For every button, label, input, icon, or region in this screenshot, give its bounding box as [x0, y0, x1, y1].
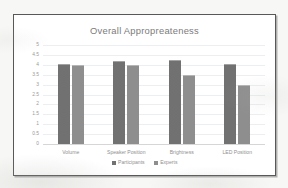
bar-group: [43, 45, 99, 144]
bar-top-highlight: [127, 65, 139, 66]
y-axis-tick-label: 0.5: [32, 132, 39, 137]
bar-groups: [43, 45, 265, 144]
y-axis-tick-label: 2.5: [32, 92, 39, 97]
bar-experts-led-position[interactable]: [238, 85, 250, 144]
bar-group: [99, 45, 155, 144]
chart-frame: Overall Appropreateness 54.543.532.521.5…: [13, 14, 276, 176]
x-axis-tick-label: Brightness: [154, 146, 210, 158]
bar-experts-speaker-position[interactable]: [127, 65, 139, 144]
bar-group: [154, 45, 210, 144]
y-axis-tick-label: 3.5: [32, 72, 39, 77]
bar-group: [210, 45, 266, 144]
y-axis: 54.543.532.521.510.50: [16, 45, 41, 144]
plot-area: [43, 45, 265, 144]
bar-participants-led-position[interactable]: [224, 64, 236, 144]
bar-participants-volume[interactable]: [58, 64, 70, 144]
x-axis: VolumeSpeaker PositionBrightnessLED Posi…: [43, 146, 265, 158]
y-axis-tick-label: 5: [36, 43, 39, 48]
bar-participants-speaker-position[interactable]: [113, 61, 125, 144]
bar-experts-volume[interactable]: [72, 65, 84, 144]
legend-item-experts[interactable]: Experts: [154, 160, 178, 165]
legend-item-participants[interactable]: Participants: [112, 160, 145, 165]
square-marker-light: [154, 161, 158, 165]
bar-participants-brightness[interactable]: [169, 60, 181, 144]
chart-legend: ParticipantsExperts: [16, 160, 273, 165]
bar-top-highlight: [72, 65, 84, 66]
bar-top-highlight: [113, 61, 125, 62]
y-axis-tick-label: 4: [36, 62, 39, 67]
bar-top-highlight: [183, 75, 195, 76]
bar-top-highlight: [58, 64, 70, 65]
x-axis-tick-label: Volume: [43, 146, 99, 158]
chart-plot-container: Overall Appropreateness 54.543.532.521.5…: [16, 17, 273, 173]
legend-label: Experts: [160, 160, 177, 165]
gridline: [43, 144, 265, 145]
y-axis-tick-label: 2: [36, 102, 39, 107]
square-marker-dark: [112, 161, 116, 165]
y-axis-tick-label: 1: [36, 122, 39, 127]
x-axis-tick-label: LED Position: [210, 146, 266, 158]
y-axis-tick-label: 0: [36, 142, 39, 147]
y-axis-tick-label: 1.5: [32, 112, 39, 117]
x-axis-tick-label: Speaker Position: [99, 146, 155, 158]
bar-top-highlight: [169, 60, 181, 61]
bar-top-highlight: [224, 64, 236, 65]
bar-top-highlight: [238, 85, 250, 86]
y-axis-tick-label: 4.5: [32, 52, 39, 57]
y-axis-tick-label: 3: [36, 82, 39, 87]
legend-label: Participants: [118, 160, 145, 165]
bar-experts-brightness[interactable]: [183, 75, 195, 144]
chart-title: Overall Appropreateness: [16, 25, 273, 36]
